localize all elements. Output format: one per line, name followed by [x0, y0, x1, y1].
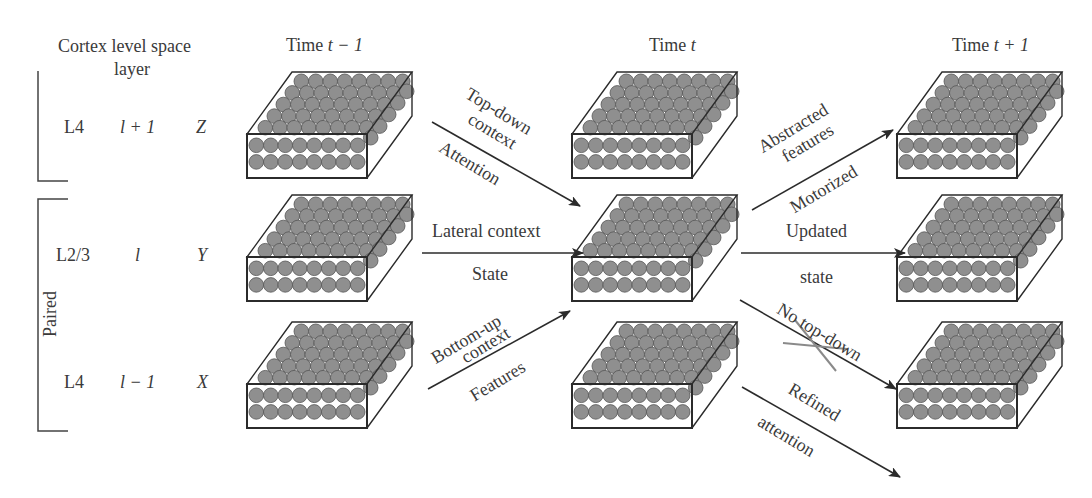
row-y-space: Y [197, 246, 207, 264]
row-y-cortex: L2/3 [56, 246, 90, 264]
header-layer: layer [114, 60, 150, 78]
neuron-layer-box-z-next [897, 72, 1064, 178]
label-lateral-context: Lateral context [432, 222, 540, 240]
row-x-space: X [197, 373, 208, 391]
row-x-level: l − 1 [120, 373, 155, 391]
label-state: State [472, 265, 508, 283]
arrow-no-top-down [740, 300, 896, 389]
neuron-layer-box-y-now [572, 195, 739, 301]
time-prev-prefix: Time [286, 35, 328, 55]
neuron-layer-box-y-prev [247, 195, 414, 301]
row-z-space: Z [196, 118, 206, 136]
time-now-prefix: Time [649, 35, 691, 55]
header-time-next: Time t + 1 [952, 36, 1029, 54]
neuron-layer-box-z-prev [247, 72, 414, 178]
row-x-cortex: L4 [64, 373, 84, 391]
neuron-layer-box-x-next [897, 322, 1064, 428]
row-z-level: l + 1 [120, 118, 155, 136]
time-next-prefix: Time [952, 35, 994, 55]
diagram-graphics [0, 0, 1092, 498]
neuron-layer-box-z-now [572, 72, 739, 178]
neuron-layer-box-y-next [897, 195, 1064, 301]
neuron-layer-box-x-prev [247, 322, 414, 428]
bracket-paired-label: Paired [41, 291, 59, 337]
header-cortex-level-space: Cortex level space [58, 37, 191, 55]
row-z-cortex: L4 [64, 118, 84, 136]
header-time-now: Time t [649, 36, 696, 54]
time-next-var: t + 1 [994, 35, 1029, 55]
time-prev-var: t − 1 [328, 35, 363, 55]
header-time-prev: Time t − 1 [286, 36, 363, 54]
label-updated-state: state [800, 268, 833, 286]
time-now-var: t [691, 35, 696, 55]
neuron-layer-box-x-now [572, 322, 739, 428]
label-updated: Updated [786, 222, 847, 240]
row-y-level: l [135, 246, 140, 264]
